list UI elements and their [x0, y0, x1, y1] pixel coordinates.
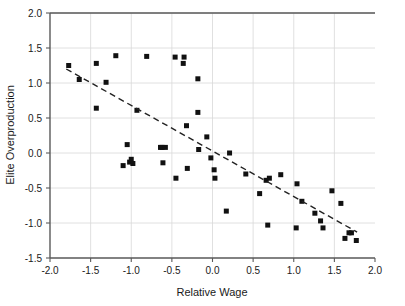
- data-point: [338, 201, 343, 206]
- data-point: [195, 110, 200, 115]
- data-point: [329, 188, 334, 193]
- data-point: [130, 161, 135, 166]
- data-point: [318, 218, 323, 223]
- data-point: [354, 238, 359, 243]
- data-point: [224, 209, 229, 214]
- y-tick-label: 1.5: [28, 43, 42, 54]
- data-point: [312, 211, 317, 216]
- x-tick-label: 0.5: [246, 265, 260, 276]
- data-point: [163, 145, 168, 150]
- data-point: [182, 55, 187, 60]
- data-point: [94, 61, 99, 66]
- data-point: [212, 176, 217, 181]
- data-point: [208, 155, 213, 160]
- scatter-plot-figure: -2.0-1.5-1.0-0.50.00.51.01.52.0 -1.5-1.0…: [0, 0, 405, 306]
- data-point: [243, 172, 248, 177]
- y-tick-label: -0.5: [25, 183, 43, 194]
- y-tick-label: 1.0: [28, 78, 42, 89]
- data-point: [77, 77, 82, 82]
- data-point: [104, 80, 109, 85]
- data-point: [66, 63, 71, 68]
- x-tick-labels-group: -2.0-1.5-1.0-0.50.00.51.01.52.0: [41, 265, 382, 276]
- y-tick-label: 0.0: [28, 148, 42, 159]
- data-point: [212, 167, 217, 172]
- data-point: [113, 53, 118, 58]
- data-point: [321, 225, 326, 230]
- data-point: [267, 176, 272, 181]
- y-tick-label: -1.5: [25, 253, 43, 264]
- data-point: [125, 142, 130, 147]
- data-point: [195, 76, 200, 81]
- tick-marks-group: [46, 13, 375, 262]
- data-point: [278, 172, 283, 177]
- gridlines-group: [50, 13, 375, 258]
- trendline: [66, 69, 357, 232]
- x-tick-label: -0.5: [163, 265, 181, 276]
- data-point: [204, 134, 209, 139]
- data-point: [265, 223, 270, 228]
- data-point: [227, 151, 232, 156]
- x-tick-label: -2.0: [41, 265, 59, 276]
- data-point: [181, 61, 186, 66]
- y-axis-title: Elite Overproduction: [4, 85, 16, 185]
- data-point: [121, 163, 126, 168]
- data-point: [349, 230, 354, 235]
- x-tick-label: -1.0: [123, 265, 141, 276]
- data-point: [144, 54, 149, 59]
- y-tick-label: 0.5: [28, 113, 42, 124]
- y-tick-labels-group: -1.5-1.0-0.50.00.51.01.52.0: [25, 8, 43, 264]
- x-tick-label: 0.0: [206, 265, 220, 276]
- data-point: [294, 225, 299, 230]
- data-point: [342, 236, 347, 241]
- x-tick-label: -1.5: [82, 265, 100, 276]
- data-point: [196, 147, 201, 152]
- data-point: [257, 191, 262, 196]
- data-point: [173, 55, 178, 60]
- data-point: [173, 176, 178, 181]
- y-tick-label: 2.0: [28, 8, 42, 19]
- data-point: [184, 123, 189, 128]
- data-point: [94, 106, 99, 111]
- data-point: [295, 181, 300, 186]
- y-tick-label: -1.0: [25, 218, 43, 229]
- x-tick-label: 1.0: [287, 265, 301, 276]
- x-tick-label: 2.0: [368, 265, 382, 276]
- x-axis-title: Relative Wage: [176, 286, 247, 298]
- data-point: [185, 166, 190, 171]
- x-tick-label: 1.5: [327, 265, 341, 276]
- chart-canvas: -2.0-1.5-1.0-0.50.00.51.01.52.0 -1.5-1.0…: [0, 0, 405, 306]
- data-point: [160, 160, 165, 165]
